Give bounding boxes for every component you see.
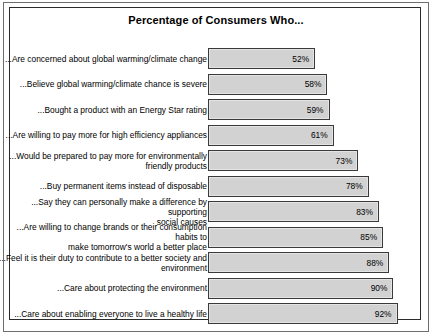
bar: 73% (208, 150, 358, 171)
bar-category-label: ...Buy permanent items instead of dispos… (0, 181, 207, 191)
bar-track: 61% (208, 125, 334, 146)
bar-track: 92% (208, 303, 398, 324)
bar-category-label: ...Bought a product with an Energy Star … (0, 104, 207, 114)
bar-row: ...Care about protecting the environment… (0, 278, 432, 299)
bar-value-label: 83% (356, 207, 373, 217)
chart-title: Percentage of Consumers Who... (0, 14, 432, 26)
bar-value-label: 52% (292, 54, 309, 64)
bar-value-label: 78% (346, 181, 363, 191)
bar-value-label: 59% (307, 105, 324, 115)
bar: 88% (208, 252, 389, 273)
bar-row: ...Believe global warming/climate chance… (0, 74, 432, 95)
bar-value-label: 90% (371, 283, 388, 293)
bar-category-label: ...Would be prepared to pay more for env… (0, 150, 207, 170)
bar-track: 85% (208, 227, 383, 248)
bar-track: 78% (208, 176, 369, 197)
bar-category-label: ...Are concerned about global warming/cl… (0, 53, 207, 63)
bar: 61% (208, 125, 334, 146)
bar-category-label: ...Are willing to pay more for high effi… (0, 130, 207, 140)
bar: 58% (208, 74, 327, 95)
bar-value-label: 88% (367, 258, 384, 268)
bar-track: 59% (208, 99, 330, 120)
bar-row: ...Are willing to pay more for high effi… (0, 125, 432, 146)
bar-row: ...Care about enabling everyone to live … (0, 303, 432, 324)
bar-category-label: ...Care about protecting the environment (0, 283, 207, 293)
chart-container: Percentage of Consumers Who... ...Are co… (0, 0, 432, 335)
bar-category-label: ...Feel it is their duty to contribute t… (0, 252, 207, 272)
bar: 85% (208, 227, 383, 248)
bar-value-label: 92% (375, 309, 392, 319)
bar-category-label: ...Believe global warming/climate chance… (0, 79, 207, 89)
bar-category-label: ...Care about enabling everyone to live … (0, 308, 207, 318)
bar-row: ...Say they can personally make a differ… (0, 201, 432, 222)
bar-row: ...Buy permanent items instead of dispos… (0, 176, 432, 197)
bar: 92% (208, 303, 398, 324)
bar-row: ...Are concerned about global warming/cl… (0, 48, 432, 69)
bar-track: 52% (208, 48, 315, 69)
bar-track: 73% (208, 150, 358, 171)
bar-category-label: ...Are willing to change brands or their… (0, 222, 207, 253)
bar-row: ...Bought a product with an Energy Star … (0, 99, 432, 120)
bar-value-label: 58% (305, 79, 322, 89)
bar: 52% (208, 48, 315, 69)
bar-value-label: 73% (336, 156, 353, 166)
bar-row: ...Feel it is their duty to contribute t… (0, 252, 432, 273)
bar: 83% (208, 201, 379, 222)
bar-track: 88% (208, 252, 389, 273)
bar: 90% (208, 278, 393, 299)
bar: 59% (208, 99, 330, 120)
bar-row: ...Are willing to change brands or their… (0, 227, 432, 248)
bar-track: 83% (208, 201, 379, 222)
bar-track: 90% (208, 278, 393, 299)
bar-value-label: 85% (360, 232, 377, 242)
bar-track: 58% (208, 74, 327, 95)
plot-area: ...Are concerned about global warming/cl… (0, 42, 432, 322)
bar: 78% (208, 176, 369, 197)
bar-row: ...Would be prepared to pay more for env… (0, 150, 432, 171)
bar-value-label: 61% (311, 130, 328, 140)
